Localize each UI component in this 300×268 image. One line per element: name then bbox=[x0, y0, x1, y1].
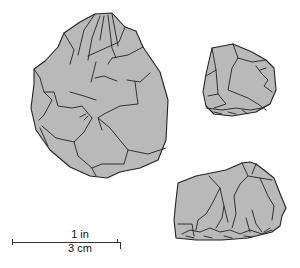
small-core-illustration bbox=[203, 44, 276, 116]
scale-tick-inch-end bbox=[117, 239, 118, 243]
scale-bar: 1 in 3 cm bbox=[12, 228, 132, 252]
scale-tick-start bbox=[12, 239, 13, 245]
chopper-illustration bbox=[174, 162, 286, 240]
large-handaxe-illustration bbox=[31, 13, 168, 178]
scale-tick-cm-end bbox=[120, 242, 121, 249]
scale-label-cm: 3 cm bbox=[60, 242, 100, 254]
stone-tools-figure: 1 in 3 cm bbox=[0, 0, 300, 268]
scale-label-inch: 1 in bbox=[60, 228, 100, 240]
